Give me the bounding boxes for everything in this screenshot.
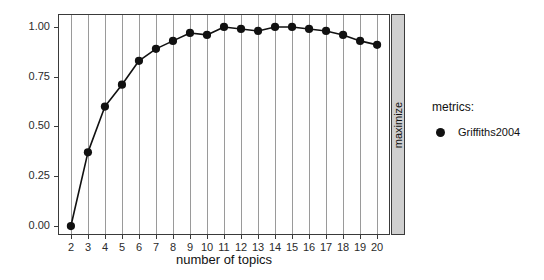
x-tick-mark-3 <box>88 235 89 239</box>
x-tick-mark-17 <box>326 235 327 239</box>
x-tick-mark-9 <box>190 235 191 239</box>
y-tick-mark-0.75 <box>54 77 58 78</box>
y-tick-mark-0.50 <box>54 126 58 127</box>
data-point-16 <box>305 25 313 33</box>
data-point-11 <box>220 23 228 31</box>
x-tick-mark-10 <box>207 235 208 239</box>
data-point-12 <box>237 25 245 33</box>
data-point-14 <box>271 23 279 31</box>
y-tick-mark-1.00 <box>54 27 58 28</box>
series-line <box>71 27 377 226</box>
x-tick-mark-14 <box>275 235 276 239</box>
x-tick-mark-13 <box>258 235 259 239</box>
legend-title: metrics: <box>432 100 540 114</box>
x-tick-mark-2 <box>71 235 72 239</box>
data-point-2 <box>67 222 75 230</box>
legend: metrics: Griffiths2004 <box>432 100 540 140</box>
x-tick-mark-18 <box>343 235 344 239</box>
data-point-6 <box>135 57 143 65</box>
data-point-18 <box>339 31 347 39</box>
x-tick-mark-16 <box>309 235 310 239</box>
x-tick-mark-4 <box>105 235 106 239</box>
y-tick-mark-0.00 <box>54 226 58 227</box>
data-point-19 <box>356 37 364 45</box>
facet-strip-label: maximize <box>392 101 404 147</box>
legend-entry: Griffiths2004 <box>432 124 540 140</box>
chart-figure: maximize 0.000.250.500.751.00 2345678910… <box>0 0 544 280</box>
series-griffiths2004 <box>59 15 389 234</box>
legend-entry-label: Griffiths2004 <box>458 126 520 138</box>
x-tick-mark-19 <box>360 235 361 239</box>
data-point-20 <box>373 41 381 49</box>
y-tick-label-0.25: 0.25 <box>29 169 50 181</box>
data-point-3 <box>84 148 92 156</box>
y-tick-label-0.75: 0.75 <box>29 70 50 82</box>
data-point-17 <box>322 27 330 35</box>
x-tick-mark-5 <box>122 235 123 239</box>
data-point-15 <box>288 23 296 31</box>
y-tick-mark-0.25 <box>54 176 58 177</box>
x-tick-mark-20 <box>377 235 378 239</box>
x-tick-mark-8 <box>173 235 174 239</box>
data-point-4 <box>101 102 109 110</box>
data-point-7 <box>152 45 160 53</box>
data-point-13 <box>254 27 262 35</box>
data-point-8 <box>169 37 177 45</box>
x-tick-mark-6 <box>139 235 140 239</box>
facet-strip-maximize: maximize <box>391 14 405 235</box>
x-tick-mark-15 <box>292 235 293 239</box>
y-tick-label-0.00: 0.00 <box>29 219 50 231</box>
data-point-9 <box>186 29 194 37</box>
data-point-10 <box>203 31 211 39</box>
legend-marker-dot <box>436 128 445 137</box>
data-point-5 <box>118 81 126 89</box>
x-axis-title: number of topics <box>58 252 390 267</box>
legend-entries: Griffiths2004 <box>432 124 540 140</box>
x-tick-mark-11 <box>224 235 225 239</box>
y-tick-label-0.50: 0.50 <box>29 119 50 131</box>
circle-icon <box>432 124 448 140</box>
x-tick-mark-7 <box>156 235 157 239</box>
y-tick-label-1.00: 1.00 <box>29 20 50 32</box>
x-tick-mark-12 <box>241 235 242 239</box>
plot-panel <box>58 14 390 235</box>
